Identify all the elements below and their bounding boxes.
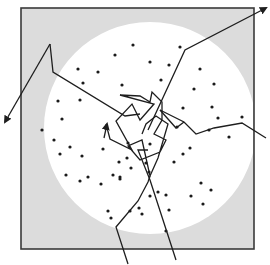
dense-scattering-disk <box>44 22 256 234</box>
diagram-canvas <box>0 0 270 265</box>
scatterer-dot <box>167 208 170 211</box>
scatterer-dot <box>240 115 243 118</box>
scatterer-dot <box>40 128 43 131</box>
scatterer-dot <box>209 188 212 191</box>
scatterer-dot <box>76 67 79 70</box>
scatterer-dot <box>189 194 192 197</box>
scatterer-dot <box>227 135 230 138</box>
scatterer-dot <box>212 82 215 85</box>
scatterer-dot <box>181 152 184 155</box>
scatterer-dot <box>129 166 132 169</box>
scatterer-dot <box>118 177 121 180</box>
scatterer-dot <box>167 63 170 66</box>
scatterer-dot <box>181 106 184 109</box>
scatterer-dot <box>99 182 102 185</box>
scatterer-dot <box>148 142 151 145</box>
scatterer-dot <box>111 173 114 176</box>
scatterer-dot <box>60 117 63 120</box>
scatterer-dot <box>131 43 134 46</box>
scatterer-dot <box>78 179 81 182</box>
scatterer-dot <box>81 81 84 84</box>
scatterer-dot <box>113 53 116 56</box>
scatterer-dot <box>201 202 204 205</box>
scattering-diagram <box>0 0 270 265</box>
scatterer-dot <box>56 99 59 102</box>
scatterer-dot <box>164 193 167 196</box>
scatterer-dot <box>58 152 61 155</box>
scatterer-dot <box>198 67 201 70</box>
scatterer-dot <box>52 138 55 141</box>
scatterer-dot <box>109 216 112 219</box>
scatterer-dot <box>156 190 159 193</box>
scatterer-dot <box>96 70 99 73</box>
scatterer-dot <box>106 209 109 212</box>
scatterer-dot <box>68 145 71 148</box>
scatterer-dot <box>125 156 128 159</box>
scatterer-dot <box>210 105 213 108</box>
scatterer-dot <box>148 60 151 63</box>
scatterer-dot <box>86 175 89 178</box>
scatterer-dot <box>172 160 175 163</box>
scatterer-dot <box>192 87 195 90</box>
scatterer-dot <box>148 194 151 197</box>
scatterer-dot <box>140 212 143 215</box>
scatterer-dot <box>120 83 123 86</box>
scatterer-dot <box>64 173 67 176</box>
scatterer-dot <box>216 116 219 119</box>
scatterer-dot <box>159 78 162 81</box>
scatterer-dot <box>178 45 181 48</box>
scatterer-dot <box>101 147 104 150</box>
scatterer-dot <box>188 146 191 149</box>
scatterer-dot <box>199 181 202 184</box>
scatterer-dot <box>80 154 83 157</box>
scatterer-dot <box>117 160 120 163</box>
scatterer-dot <box>137 206 140 209</box>
scatterer-dot <box>78 98 81 101</box>
